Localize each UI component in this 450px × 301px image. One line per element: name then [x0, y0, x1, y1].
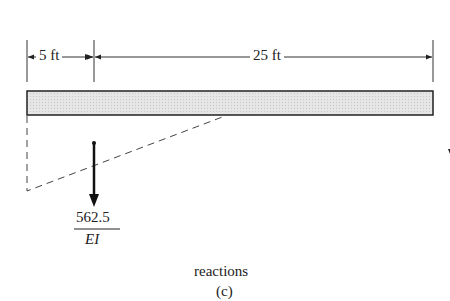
- moment-diagram-dashed: [27, 116, 225, 191]
- arrow-head-icon: [89, 194, 99, 207]
- beam: [27, 91, 433, 115]
- caption-title: reactions: [194, 263, 248, 280]
- dim-label-5ft: 5 ft: [36, 47, 62, 64]
- load-value-denominator: EI: [85, 231, 99, 248]
- load-value-numerator: 562.5: [76, 209, 110, 226]
- caption-label: (c): [216, 283, 233, 300]
- dim-label-25ft: 25 ft: [250, 47, 284, 64]
- beam-diagram: [0, 0, 450, 301]
